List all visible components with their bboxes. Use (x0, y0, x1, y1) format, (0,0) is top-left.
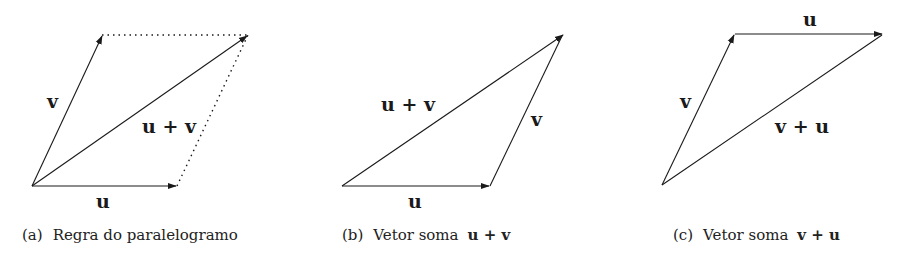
caption-math: v + u (796, 226, 840, 244)
vector-v-arrow (662, 35, 734, 185)
label-v: v (679, 90, 692, 112)
vector-sum-segment (662, 35, 882, 185)
caption-text: Vetor soma (702, 226, 788, 244)
caption-b: (b) Vetor soma u + v (342, 226, 511, 244)
panel-b-triangle-u-plus-v: u + v v u (b) Vetor soma u + v (342, 35, 563, 244)
label-u: u (408, 190, 422, 212)
vector-v-arrow (32, 36, 102, 186)
label-sum: u + v (142, 115, 197, 137)
figure-canvas: v u + v u (a) Regra do paralelogramo u +… (0, 0, 905, 257)
caption-c: (c) Vetor soma v + u (673, 226, 840, 244)
label-u: u (803, 8, 817, 30)
panel-c-triangle-v-plus-u: u v v + u (c) Vetor soma v + u (662, 8, 882, 244)
caption-tag: (c) (673, 226, 693, 244)
label-u: u (96, 190, 110, 212)
vector-sum-arrow (342, 35, 563, 186)
caption-a: (a) Regra do paralelogramo (22, 226, 238, 244)
label-sum: u + v (381, 93, 436, 115)
caption-tag: (b) (342, 226, 363, 244)
caption-text: Vetor soma (372, 226, 458, 244)
vector-addition-figure: v u + v u (a) Regra do paralelogramo u +… (0, 0, 905, 257)
caption-tag: (a) (22, 226, 43, 244)
dotted-edge-right (177, 35, 248, 186)
panel-a-parallelogram: v u + v u (a) Regra do paralelogramo (22, 35, 248, 244)
label-v: v (46, 90, 59, 112)
caption-text: Regra do paralelogramo (53, 226, 238, 244)
label-v: v (530, 108, 543, 130)
vector-sum-arrow (32, 36, 247, 186)
label-sum: v + u (774, 115, 829, 137)
caption-math: u + v (468, 226, 512, 244)
vector-v-segment (490, 36, 562, 186)
